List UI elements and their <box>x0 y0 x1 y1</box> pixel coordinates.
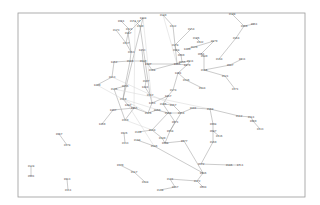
node-label: 1961 <box>251 23 258 26</box>
node-label: 2148 <box>229 13 236 16</box>
node-label: 1407 <box>110 109 117 112</box>
node-label: 2121 <box>222 75 229 78</box>
node-label: 2189 <box>201 55 208 58</box>
node-label: 2139 <box>135 131 142 134</box>
node-label: 2179 <box>211 40 218 43</box>
node-label: 2131 <box>167 178 174 181</box>
node-label: 1926 <box>121 132 128 135</box>
node-label: 2151.37 <box>130 20 141 23</box>
node-label: 1469 <box>99 123 106 126</box>
node-label: 2171 <box>232 88 239 91</box>
node-label: 2180 <box>160 14 167 17</box>
node-label: 2116 <box>201 69 208 72</box>
node-label: 2168 <box>207 108 214 111</box>
node-label: 2186 <box>226 164 233 167</box>
node-label: 1960 <box>250 120 257 123</box>
node-label: 1977 <box>181 140 188 143</box>
node-label: 2157 <box>170 104 177 107</box>
node-label: 2138 <box>157 189 164 192</box>
node-label: 2072 <box>198 163 205 166</box>
node-label: 2132 <box>170 25 177 28</box>
node-label: 2144 <box>216 58 223 61</box>
node-label: 2186 <box>151 145 158 148</box>
node-label: 2119 <box>120 98 127 101</box>
node-label: 2164 <box>233 37 240 40</box>
node-label: 2117 <box>131 171 138 174</box>
node-label: 2901 <box>28 175 35 178</box>
node-label: 1449 <box>184 48 191 51</box>
node-label: 2120 <box>122 119 129 122</box>
node-label: 2133 <box>122 142 129 145</box>
node-label: 2163 <box>128 51 135 54</box>
node-label: 1913 <box>64 178 71 181</box>
node-label: 1488 <box>140 17 147 20</box>
node-label: 2156 <box>122 85 129 88</box>
node-label: 2188 <box>142 181 149 184</box>
node-label: 2181 <box>190 107 197 110</box>
node-label: 1938 <box>167 130 174 133</box>
node-label: 2087 <box>227 64 234 67</box>
node-label: 1453 <box>149 102 156 105</box>
node-label: 2131 <box>187 60 194 63</box>
node-label: 1979 <box>117 164 124 167</box>
node-label: 2178 <box>172 44 179 47</box>
node-label: 2140 <box>137 25 144 28</box>
node-label: 2183 <box>127 60 134 63</box>
node-label: 2167 <box>172 186 179 189</box>
node-label: 2094 <box>200 186 207 189</box>
node-label: 2134 <box>149 129 156 132</box>
node-label: 2136 <box>183 79 190 82</box>
node-label: 2168 <box>149 69 156 72</box>
node-label: 2168 <box>173 49 180 52</box>
node-label: 2136 <box>216 135 223 138</box>
node-label: 1465 <box>131 107 138 110</box>
node-label: 2169 <box>241 25 248 28</box>
node-label: 2128 <box>28 165 35 168</box>
node-label: 2135 <box>111 88 118 91</box>
node-label: 1711 <box>237 164 244 167</box>
node-label: 2160 <box>154 109 161 112</box>
node-label: 2184 <box>199 87 206 90</box>
node-label: 1447 <box>145 63 152 66</box>
node-label: 2107 <box>143 80 150 83</box>
node-label: 2154 <box>188 28 195 31</box>
node-label: 2168 <box>165 112 172 115</box>
node-label: 2069 <box>178 54 185 57</box>
network-diagram: 19612151.3714882140217321222187213721631… <box>0 0 320 205</box>
node-label: 1465 <box>174 63 181 66</box>
node-label: 2160 <box>210 141 217 144</box>
node-label: 2087 <box>210 130 217 133</box>
node-label: 1479 <box>184 64 191 67</box>
node-label: 2111 <box>65 189 72 192</box>
node-label: 2178 <box>64 144 71 147</box>
node-label: 2144 <box>134 139 141 142</box>
node-label: 2137 <box>123 42 130 45</box>
node-label: 1449 <box>94 84 101 87</box>
node-label: 1481 <box>142 86 149 89</box>
node-label: 1467 <box>165 95 172 98</box>
node-label: 1452 <box>111 61 118 64</box>
node-label: 1453 <box>139 49 146 52</box>
node-label: 2173 <box>113 29 120 32</box>
node-label: 2112 <box>236 115 243 118</box>
node-label: 2126 <box>145 112 152 115</box>
node-label: 2174 <box>170 89 177 92</box>
node-label: 2106 <box>193 37 200 40</box>
node-label: 1931 <box>239 58 246 61</box>
node-label: 1998 <box>162 142 169 145</box>
node-label: 1961 <box>118 20 125 23</box>
node-label: 2187 <box>125 32 132 35</box>
node-label: 2154 <box>178 112 185 115</box>
node-label: 2142 <box>197 41 204 44</box>
node-label: 2111 <box>248 116 255 119</box>
node-label: 2113 <box>109 76 116 79</box>
node-label: 1967 <box>56 133 63 136</box>
node-label: 1401 <box>175 72 182 75</box>
node-label: 2145 <box>160 103 167 106</box>
node-label: 2117 <box>147 94 154 97</box>
node-label: 2133 <box>257 128 264 131</box>
node-label: 2120 <box>191 46 198 49</box>
node-label: 1986 <box>200 172 207 175</box>
node-label: 1998 <box>210 123 217 126</box>
node-label: 2149 <box>159 137 166 140</box>
